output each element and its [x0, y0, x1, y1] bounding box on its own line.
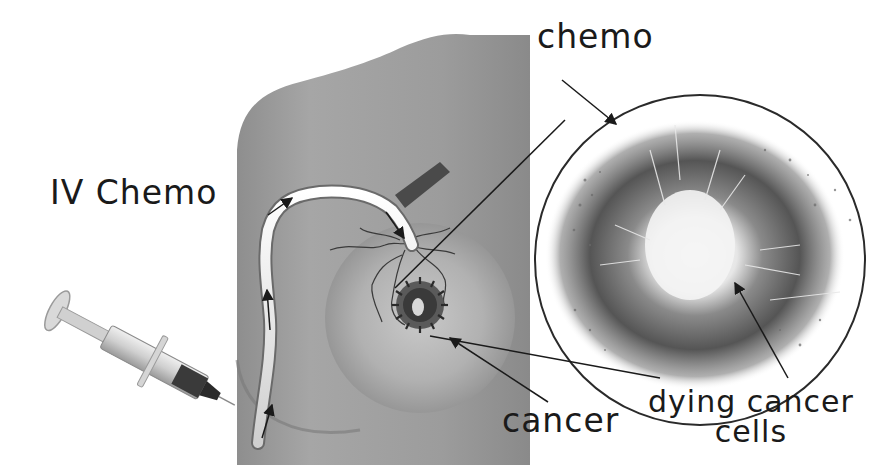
chemo-diagram: IV Chemo chemo cancer dying cancer cells: [0, 0, 896, 475]
syringe: [37, 282, 248, 430]
plunger-rod: [57, 307, 111, 343]
torso: [237, 34, 530, 465]
needle: [219, 397, 235, 405]
label-dying-cancer-cells-line2: cells: [648, 417, 854, 447]
chemo-pointer: [562, 80, 616, 124]
magnified-view: [535, 95, 865, 425]
label-cancer: cancer: [502, 404, 619, 437]
label-dying-cancer-cells: dying cancer cells: [648, 387, 854, 447]
label-iv-chemo: IV Chemo: [50, 176, 217, 209]
label-dying-cancer-cells-line1: dying cancer: [648, 387, 854, 417]
label-chemo: chemo: [537, 20, 654, 53]
